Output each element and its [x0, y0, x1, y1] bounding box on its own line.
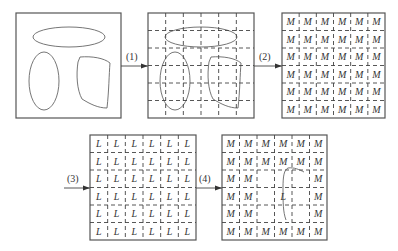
grid-cell-label: M: [226, 156, 236, 167]
grid-cell-label: M: [337, 104, 347, 115]
grid-cell-label: L: [166, 191, 173, 202]
grid-cell-label: M: [354, 34, 364, 45]
grid-cell-label: L: [148, 208, 155, 219]
grid-cell-label: M: [313, 156, 323, 167]
grid-cell-label: M: [285, 34, 295, 45]
grid-cell-label: M: [243, 138, 253, 149]
grid-cell-label: L: [148, 156, 155, 167]
grid-cell-label: M: [313, 226, 323, 237]
grid-cell-label: L: [113, 156, 120, 167]
grid-cell-label: M: [261, 138, 271, 149]
grid-cell-label: L: [183, 156, 190, 167]
grid-cell-label: L: [148, 138, 155, 149]
grid-cell-label: L: [279, 191, 286, 202]
grid-cell-label: L: [113, 226, 120, 237]
grid-cell-label: M: [337, 86, 347, 97]
grid-cell-label: M: [243, 226, 253, 237]
grid-cell-label: M: [226, 173, 236, 184]
grid-cell-label: M: [285, 69, 295, 80]
grid-cell-label: L: [183, 191, 190, 202]
grid-cell-label: L: [95, 138, 102, 149]
grid-cell-label: M: [354, 69, 364, 80]
grid-cell-label: M: [371, 69, 381, 80]
arrow-step-4: (4): [196, 173, 222, 191]
grid-cell-label: L: [130, 173, 137, 184]
grid-cell-label: L: [113, 208, 120, 219]
grid-cell-label: M: [320, 16, 330, 27]
grid-cell-label: M: [320, 34, 330, 45]
grid-cell-label: L: [95, 191, 102, 202]
grid-cell-label: L: [95, 173, 102, 184]
grid-cell-label: M: [371, 34, 381, 45]
grid-cell-label: M: [278, 226, 288, 237]
grid-cell-label: L: [148, 191, 155, 202]
grid-cell-label: M: [278, 138, 288, 149]
grid-cell-label: M: [243, 156, 253, 167]
grid-cell-label: M: [354, 51, 364, 62]
grid-cell-label: L: [183, 138, 190, 149]
grid-cell-label: M: [303, 34, 313, 45]
grid-cell-label: L: [148, 173, 155, 184]
grid-cell-label: L: [166, 208, 173, 219]
grid-cell-label: L: [130, 208, 137, 219]
arrow-step-1: (1): [121, 51, 148, 69]
grid-cell-label: L: [130, 138, 137, 149]
grid-cell-label: M: [285, 16, 295, 27]
grid-cell-label: L: [166, 173, 173, 184]
grid-cell-label: M: [337, 16, 347, 27]
grid-cell-label: L: [95, 208, 102, 219]
grid-cell-label: M: [371, 86, 381, 97]
grid-cell-label: L: [166, 226, 173, 237]
grid-cell-label: L: [166, 138, 173, 149]
diagram-canvas: (1) (2) MMMMMMMMMMMMMMMMMMMMMMMMMMMMMMMM…: [0, 0, 398, 251]
grid-cell-label: M: [243, 173, 253, 184]
grid-cell-label: M: [354, 86, 364, 97]
panel-mixed-grid: MMMMMMMMMMMMMMMMMLMMMMMMMMMM: [222, 135, 327, 240]
grid-cell-label: L: [113, 173, 120, 184]
grid-cell-label: M: [303, 86, 313, 97]
grid-cell-label: M: [320, 104, 330, 115]
grid-cell-label: M: [313, 173, 323, 184]
grid-cell-label: M: [226, 208, 236, 219]
grid-cell-label: M: [320, 86, 330, 97]
grid-cell-label: L: [130, 191, 137, 202]
grid-cell-label: M: [320, 51, 330, 62]
grid-cell-label: M: [313, 208, 323, 219]
grid-cell-label: M: [261, 156, 271, 167]
grid-cell-label: M: [371, 16, 381, 27]
grid-cell-label: M: [371, 51, 381, 62]
grid-cell-label: M: [226, 191, 236, 202]
step-label-3: (3): [67, 173, 79, 185]
grid-cell-label: L: [95, 156, 102, 167]
grid-cell-label: M: [226, 226, 236, 237]
grid-cell-label: M: [337, 34, 347, 45]
panel-l-labeled-grid: LLLLLLLLLLLLLLLLLLLLLLLLLLLLLLLLLLLL: [90, 135, 196, 240]
panel-m-labeled-grid: MMMMMMMMMMMMMMMMMMMMMMMMMMMMMMMMMMMM: [282, 13, 385, 118]
grid-cell-label: M: [285, 104, 295, 115]
grid-cell-label: L: [166, 156, 173, 167]
grid-cell-label: M: [303, 16, 313, 27]
grid-cell-label: L: [130, 226, 137, 237]
grid-cell-label: L: [148, 226, 155, 237]
grid-cell-label: M: [371, 104, 381, 115]
step-label-4: (4): [199, 173, 211, 185]
panel-grid-overlay: [148, 13, 254, 118]
grid-cell-label: M: [296, 138, 306, 149]
step-label-2: (2): [259, 51, 271, 63]
grid-cell-label: M: [226, 138, 236, 149]
grid-cell-label: L: [130, 156, 137, 167]
grid-cell-label: M: [285, 51, 295, 62]
grid-cell-label: L: [95, 226, 102, 237]
grid-cell-label: M: [320, 69, 330, 80]
grid-cell-label: L: [183, 208, 190, 219]
grid-cell-label: M: [337, 51, 347, 62]
grid-cell-label: L: [113, 191, 120, 202]
grid-cell-label: M: [278, 156, 288, 167]
grid-cell-label: M: [303, 51, 313, 62]
grid-cell-label: M: [313, 191, 323, 202]
step-label-1: (1): [126, 51, 138, 63]
grid-cell-label: M: [243, 208, 253, 219]
grid-cell-label: M: [261, 226, 271, 237]
grid-cell-label: M: [285, 86, 295, 97]
grid-cell-label: M: [313, 138, 323, 149]
